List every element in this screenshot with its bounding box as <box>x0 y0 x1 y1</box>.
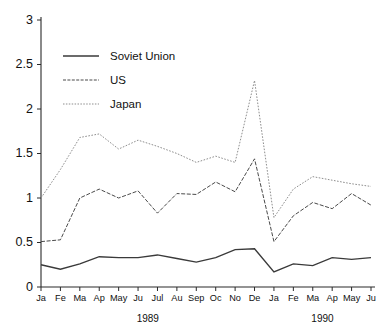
x-tick-label: Fe <box>55 293 66 303</box>
y-tick-label: 2 <box>26 102 33 116</box>
x-tick-label: No <box>229 293 241 303</box>
series-line-us <box>41 159 371 242</box>
x-tick-label: May <box>110 293 128 303</box>
series-line-soviet-union <box>41 249 371 272</box>
y-tick-label: 0 <box>26 280 33 294</box>
x-tick-label: Au <box>171 293 182 303</box>
legend-label-us: US <box>110 74 126 86</box>
x-tick-label: Ju <box>133 293 143 303</box>
series-line-japan <box>41 81 371 218</box>
x-tick-label: Sep <box>188 293 204 303</box>
x-axis: JaFeMaApMayJuJulAuSepOcNoDeJaFeMaApMayJu <box>36 287 376 303</box>
x-tick-label: Oc <box>210 293 222 303</box>
x-tick-label: De <box>249 293 261 303</box>
y-tick-label: 1.5 <box>16 146 33 160</box>
y-tick-label: 1 <box>26 191 33 205</box>
x-tick-label: Ja <box>269 293 280 303</box>
legend-label-japan: Japan <box>110 98 141 110</box>
x-tick-label: Jul <box>152 293 164 303</box>
y-tick-label: 0.5 <box>16 235 33 249</box>
year-label: 1990 <box>311 313 334 324</box>
x-tick-label: Ap <box>327 293 338 303</box>
x-tick-label: Ap <box>94 293 105 303</box>
year-labels: 19891990 <box>137 313 334 324</box>
x-tick-label: Ma <box>306 293 320 303</box>
legend-label-soviet-union: Soviet Union <box>110 50 175 62</box>
y-tick-label: 3 <box>26 13 33 27</box>
x-tick-label: May <box>343 293 361 303</box>
chart-canvas: 00.511.522.53 JaFeMaApMayJuJulAuSepOcNoD… <box>0 0 378 332</box>
x-tick-label: Fe <box>288 293 299 303</box>
y-axis: 00.511.522.53 <box>16 13 41 294</box>
x-tick-label: Ma <box>73 293 87 303</box>
x-tick-label: Ja <box>36 293 47 303</box>
x-tick-label: Ju <box>366 293 376 303</box>
year-label: 1989 <box>137 313 160 324</box>
chart-legend: Soviet UnionUSJapan <box>63 50 175 110</box>
series-lines <box>41 81 371 272</box>
line-chart: 00.511.522.53 JaFeMaApMayJuJulAuSepOcNoD… <box>0 0 378 332</box>
y-tick-label: 2.5 <box>16 57 33 71</box>
